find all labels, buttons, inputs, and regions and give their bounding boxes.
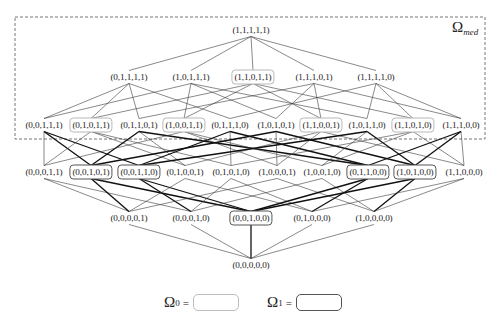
lattice-edge — [367, 132, 415, 166]
lattice-node: (0,0,1,1,1) — [23, 119, 64, 132]
legend-equals: = — [286, 297, 292, 309]
legend-equals: = — [183, 297, 189, 309]
lattice-edge — [231, 179, 312, 212]
lattice-edge — [276, 132, 277, 166]
lattice-edge — [129, 84, 139, 119]
lattice-edge — [251, 37, 314, 71]
legend-symbol: Ω — [267, 294, 278, 311]
omega-symbol: Ω — [452, 19, 463, 35]
lattice-edge — [415, 132, 461, 166]
lattice-edge — [276, 84, 314, 119]
lattice-node: (1,0,1,0,0) — [393, 165, 436, 180]
lattice-edge — [129, 84, 230, 119]
lattice-node: (1,0,0,0,1) — [256, 166, 297, 179]
legend-swatch-omega0 — [193, 294, 239, 311]
lattice-edge — [251, 225, 374, 259]
lattice-node: (0,1,0,0,1) — [164, 166, 205, 179]
lattice-node: (0,1,0,1,0) — [210, 166, 251, 179]
lattice-edge — [44, 132, 139, 166]
lattice-node: (1,0,0,0,0) — [353, 212, 394, 225]
legend-subscript: 0 — [175, 298, 180, 308]
lattice-edge — [376, 84, 413, 119]
lattice-edge — [129, 225, 251, 259]
lattice-node: (0,0,1,1,0) — [117, 165, 160, 180]
lattice-edge — [44, 132, 184, 166]
lattice-node: (1,1,0,0,0) — [443, 166, 484, 179]
lattice-node: (1,0,0,1,0) — [301, 166, 342, 179]
lattice-node: (0,1,1,0,0) — [346, 165, 389, 180]
lattice-edge — [251, 179, 368, 212]
lattice-edge — [461, 132, 464, 166]
legend-symbol: Ω — [164, 294, 175, 311]
lattice-edge — [367, 84, 376, 119]
lattice-edge — [129, 37, 251, 71]
lattice-edge — [139, 179, 191, 212]
lattice-edge — [251, 37, 376, 71]
lattice-node: (0,1,0,1,1) — [69, 118, 112, 133]
lattice-edge — [91, 179, 251, 212]
lattice-node: (0,0,0,0,0) — [230, 259, 271, 272]
lattice-edge — [91, 132, 231, 166]
lattice-edge — [139, 179, 251, 212]
legend-subscript: 1 — [278, 298, 283, 308]
lattice-node: (0,0,0,0,1) — [108, 212, 149, 225]
lattice-edge — [251, 179, 415, 212]
lattice-edge — [251, 225, 312, 259]
lattice-edge — [184, 84, 191, 119]
lattice-node: (0,1,1,1,0) — [209, 119, 250, 132]
lattice-edge — [191, 37, 251, 71]
lattice-edge — [374, 179, 415, 212]
lattice-edge — [231, 132, 413, 166]
lattice-edge — [251, 37, 253, 71]
lattice-node: (1,1,1,0,0) — [440, 119, 481, 132]
lattice-edge — [91, 179, 129, 212]
lattice-edge — [314, 84, 461, 119]
lattice-edge — [91, 84, 129, 119]
lattice-node: (1,0,1,1,0) — [346, 119, 387, 132]
lattice-node: (1,1,1,0,1) — [293, 71, 334, 84]
legend-omega1: Ω1 = — [267, 294, 342, 311]
lattice-node: (0,1,1,0,1) — [118, 119, 159, 132]
lattice-edge — [368, 132, 461, 166]
lattice-edge — [91, 132, 276, 166]
lattice-edge — [139, 84, 314, 119]
omega-subscript: med — [463, 27, 478, 37]
lattice-edge — [314, 84, 321, 119]
lattice-node: (0,0,1,0,1) — [69, 165, 112, 180]
lattice-node: (1,0,1,1,1) — [170, 71, 211, 84]
lattice-node: (0,0,0,1,0) — [170, 212, 211, 225]
lattice-edge — [44, 84, 191, 119]
lattice-node: (0,0,0,1,1) — [23, 166, 64, 179]
lattice-diagram: (1,1,1,1,1)(0,1,1,1,1)(1,0,1,1,1)(1,1,0,… — [0, 0, 499, 329]
lattice-node: (1,1,0,0,1) — [299, 118, 342, 133]
lattice-edge — [191, 225, 251, 259]
legend-swatch-omega1 — [296, 294, 342, 311]
lattice-node: (0,1,1,1,1) — [108, 71, 149, 84]
lattice-node: (1,1,0,1,0) — [391, 118, 434, 133]
lattice-node: (1,0,0,1,1) — [162, 118, 205, 133]
lattice-node: (1,1,1,1,1) — [230, 24, 271, 37]
omega-med-label: Ωmed — [452, 19, 478, 37]
lattice-node: (1,1,0,1,1) — [231, 70, 274, 85]
lattice-edge — [230, 84, 376, 119]
lattice-node: (1,1,1,1,0) — [355, 71, 396, 84]
lattice-node: (0,1,0,0,0) — [291, 212, 332, 225]
lattice-node: (1,0,1,0,1) — [255, 119, 296, 132]
legend-omega0: Ω0 = — [164, 294, 239, 311]
lattice-edge — [91, 84, 253, 119]
lattice-node: (0,0,1,0,0) — [229, 211, 272, 226]
lattice-edge — [191, 84, 367, 119]
